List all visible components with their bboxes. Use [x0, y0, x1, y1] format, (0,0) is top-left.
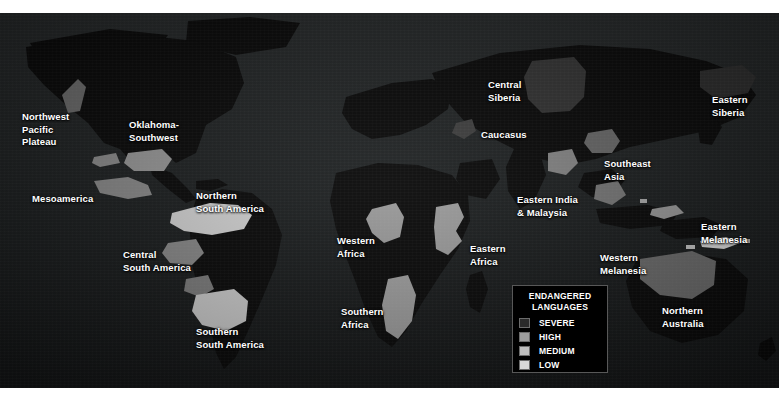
- region-label-eastern-melanesia: Eastern Melanesia: [701, 221, 747, 246]
- legend-item-medium: MEDIUM: [513, 344, 607, 358]
- legend-label-medium: MEDIUM: [539, 346, 575, 356]
- legend-label-low: LOW: [539, 360, 559, 370]
- region-label-caucasus: Caucasus: [481, 129, 527, 142]
- region-label-central-siberia: Central Siberia: [488, 79, 521, 104]
- region-label-eastern-india-malaysia: Eastern India & Malaysia: [517, 194, 578, 219]
- region-label-mesoamerica: Mesoamerica: [32, 193, 93, 206]
- legend-swatch-high: [519, 332, 530, 342]
- region-label-eastern-siberia: Eastern Siberia: [712, 94, 748, 119]
- legend-item-severe: SEVERE: [513, 316, 607, 330]
- region-label-central-south-america: Central South America: [123, 249, 191, 274]
- legend-label-high: HIGH: [539, 332, 561, 342]
- legend-rows: SEVEREHIGHMEDIUMLOW: [513, 316, 607, 372]
- endangered-languages-map-page: Northwest Pacific PlateauOklahoma- South…: [0, 0, 779, 414]
- legend-item-high: HIGH: [513, 330, 607, 344]
- legend-label-severe: SEVERE: [539, 318, 575, 328]
- legend-swatch-low: [519, 360, 530, 370]
- region-label-northwest-pacific-plateau: Northwest Pacific Plateau: [22, 111, 69, 149]
- legend-swatch-severe: [519, 318, 530, 328]
- legend: ENDANGERED LANGUAGES SEVEREHIGHMEDIUMLOW: [512, 285, 608, 373]
- region-label-southeast-asia: Southeast Asia: [604, 158, 651, 183]
- region-label-oklahoma-southwest: Oklahoma- Southwest: [129, 119, 179, 144]
- region-label-northern-australia: Northern Australia: [662, 305, 704, 330]
- region-label-northern-south-america: Northern South America: [196, 190, 264, 215]
- region-label-eastern-africa: Eastern Africa: [470, 243, 506, 268]
- legend-title: ENDANGERED LANGUAGES: [513, 291, 607, 312]
- legend-item-low: LOW: [513, 358, 607, 372]
- world-map: Northwest Pacific PlateauOklahoma- South…: [0, 13, 779, 388]
- region-label-southern-south-america: Southern South America: [196, 326, 264, 351]
- legend-swatch-medium: [519, 346, 530, 356]
- region-label-southern-africa: Southern Africa: [341, 306, 384, 331]
- region-label-western-africa: Western Africa: [337, 235, 375, 260]
- region-label-western-melanesia: Western Melanesia: [600, 252, 646, 277]
- map-landmasses-layer: [0, 13, 779, 388]
